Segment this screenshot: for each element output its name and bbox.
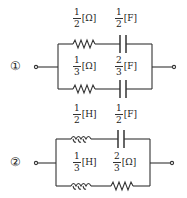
inductor-2-top-value: 12 [H] — [73, 104, 97, 125]
circuit-2-label: ② — [10, 155, 21, 169]
circuit-1-left-terminal — [34, 65, 37, 68]
circuit-1-wiring — [34, 35, 175, 98]
resistor-1-top-value: 12 [Ω] — [73, 8, 96, 29]
resistor-1-bottom-value: 13 [Ω] — [73, 56, 96, 77]
inductor-2-bottom — [71, 184, 91, 190]
resistor-1-bottom — [73, 85, 95, 93]
circuit-2-wiring — [34, 130, 173, 190]
circuit-1-right-terminal — [172, 65, 175, 68]
inductor-2-top — [71, 137, 91, 143]
resistor-1-top — [73, 40, 95, 48]
circuit-1-label: ① — [10, 59, 21, 73]
resistor-2-bottom-value: 23 [Ω] — [113, 152, 136, 173]
capacitor-1-bottom-value: 23 [F] — [115, 56, 137, 77]
circuit-2-left-terminal — [34, 161, 37, 164]
capacitor-1-top-value: 12 [F] — [115, 8, 137, 29]
capacitor-2-top-value: 12 [F] — [115, 104, 137, 125]
circuit-2-right-terminal — [170, 161, 173, 164]
inductor-2-bottom-value: 13 [H] — [73, 152, 97, 173]
resistor-2-bottom — [111, 182, 133, 190]
